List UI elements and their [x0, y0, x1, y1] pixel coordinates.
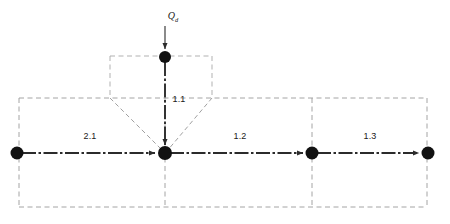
flow-label-1-3: 1.3	[363, 131, 376, 141]
funnel-right-slope	[167, 98, 212, 151]
left-node[interactable]	[11, 147, 24, 160]
nodes	[11, 51, 435, 160]
diagram-canvas: Qd 2.1 1.1 1.2 1.3	[0, 0, 450, 224]
source-flow-label: Qd	[168, 10, 178, 23]
top-node[interactable]	[159, 51, 171, 63]
funnel-left-slope	[110, 98, 163, 151]
flow-paths	[22, 62, 419, 153]
catchment-funnel-outline	[110, 56, 212, 151]
flow-label-1-1: 1.1	[172, 94, 185, 104]
junction-node[interactable]	[158, 146, 172, 160]
flow-label-2-1: 2.1	[83, 131, 96, 141]
right-node[interactable]	[422, 147, 435, 160]
flow-label-1-2: 1.2	[233, 131, 246, 141]
network-diagram	[0, 0, 450, 224]
mid-right-node[interactable]	[306, 147, 319, 160]
